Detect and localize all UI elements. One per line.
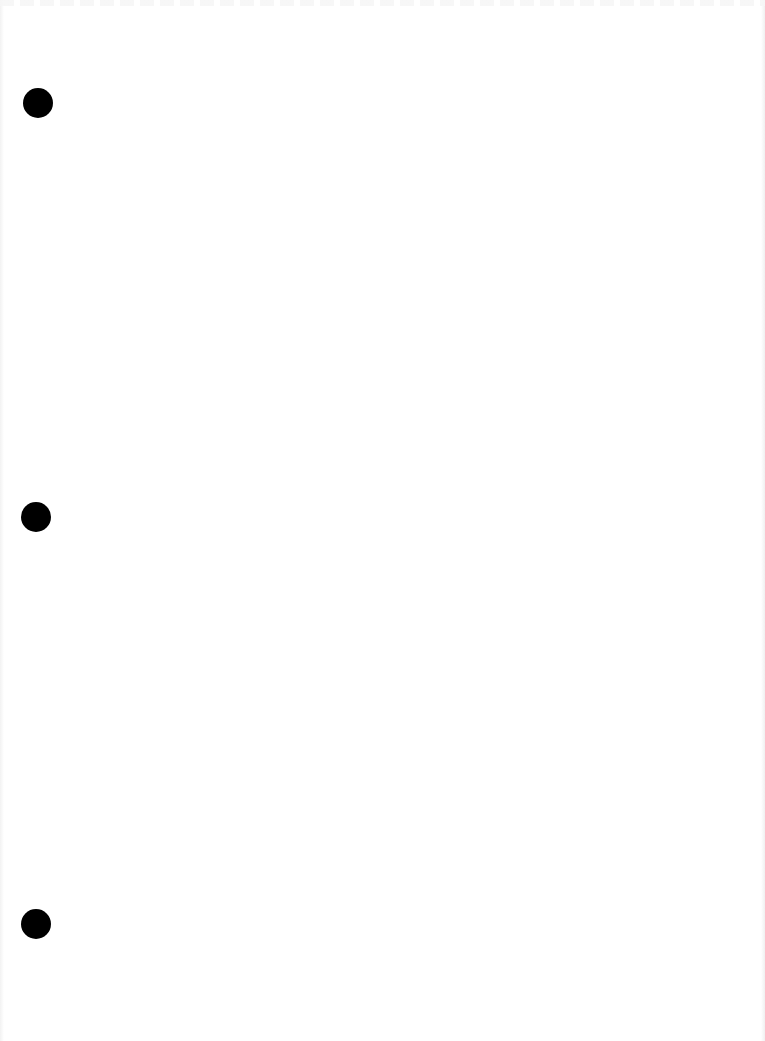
punch-hole-bottom (21, 909, 51, 939)
scan-edge-right (761, 0, 765, 1041)
punch-hole-top (23, 88, 53, 118)
punch-hole-middle (21, 502, 51, 532)
bleed-through-strip (0, 0, 765, 6)
scanned-page (0, 0, 765, 1041)
scan-edge-left (0, 0, 4, 1041)
